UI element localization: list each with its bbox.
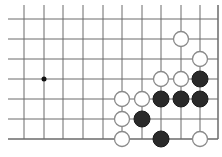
black-stone — [153, 131, 169, 147]
black-stone — [173, 91, 189, 107]
white-stone — [154, 72, 169, 87]
white-stone — [174, 72, 189, 87]
white-stone — [115, 112, 130, 127]
black-stone — [153, 91, 169, 107]
black-stone — [192, 91, 208, 107]
white-stone — [174, 32, 189, 47]
go-board — [0, 0, 222, 157]
white-stone — [135, 92, 150, 107]
white-stone — [115, 92, 130, 107]
black-stone — [192, 71, 208, 87]
white-stone — [115, 132, 130, 147]
white-stone — [193, 132, 208, 147]
black-stone — [134, 111, 150, 127]
star-point — [42, 77, 47, 82]
board-grid — [8, 5, 218, 139]
star-points — [42, 77, 47, 82]
white-stone — [193, 52, 208, 67]
